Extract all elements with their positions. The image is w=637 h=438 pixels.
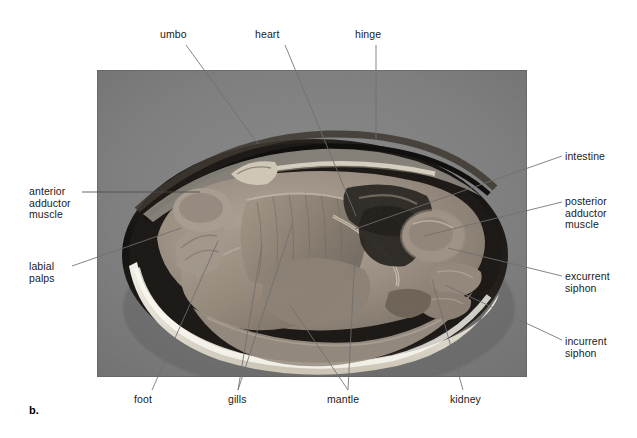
label-hinge[interactable]: hinge	[355, 29, 381, 41]
label-incurrent-siphon[interactable]: incurrent siphon	[565, 336, 607, 359]
label-foot[interactable]: foot	[134, 394, 152, 406]
clam-dissection-image	[97, 70, 527, 377]
specimen-photograph	[97, 70, 527, 377]
label-intestine[interactable]: intestine	[565, 151, 605, 163]
label-anterior-adductor-muscle[interactable]: anterior adductor muscle	[29, 186, 71, 221]
label-heart[interactable]: heart	[255, 29, 279, 41]
label-kidney[interactable]: kidney	[450, 394, 481, 406]
label-labial-palps[interactable]: labial palps	[29, 261, 55, 284]
label-mantle[interactable]: mantle	[327, 394, 359, 406]
figure-container: umbo heart hinge anterior adductor muscl…	[0, 0, 637, 438]
label-umbo[interactable]: umbo	[160, 29, 187, 41]
figure-letter: b.	[29, 404, 39, 416]
label-posterior-adductor-muscle[interactable]: posterior adductor muscle	[565, 196, 607, 231]
label-gills[interactable]: gills	[228, 394, 247, 406]
label-excurrent-siphon[interactable]: excurrent siphon	[565, 271, 610, 294]
